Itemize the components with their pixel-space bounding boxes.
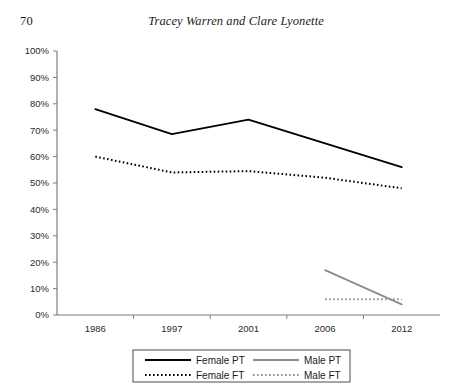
y-axis-tick-label: 10%: [30, 283, 50, 294]
legend-label-male-pt: Male PT: [304, 355, 341, 366]
x-axis-tick-label: 1986: [85, 323, 106, 334]
y-axis-tick-label: 90%: [30, 72, 50, 83]
figure-line-chart: 0%10%20%30%40%50%60%70%80%90%100% 198619…: [0, 36, 472, 387]
y-axis-tick-label: 100%: [25, 45, 50, 56]
y-axis-tick-labels: 0%10%20%30%40%50%60%70%80%90%100%: [25, 45, 50, 320]
x-axis-tick-labels: 19861997200120062012: [85, 323, 413, 334]
x-axis-tick-label: 2006: [315, 323, 336, 334]
x-axis-tick-label: 1997: [161, 323, 182, 334]
y-axis-tick-label: 0%: [35, 309, 49, 320]
y-axis-tick-label: 80%: [30, 98, 50, 109]
page-header: 70 Tracey Warren and Clare Lyonette: [0, 14, 472, 34]
legend-label-female-pt: Female PT: [196, 355, 245, 366]
legend-label-female-ft: Female FT: [196, 370, 244, 381]
x-axis-tick-label: 2001: [238, 323, 259, 334]
y-axis-tick-label: 50%: [30, 177, 50, 188]
y-axis-tick-label: 70%: [30, 125, 50, 136]
chart-canvas: 0%10%20%30%40%50%60%70%80%90%100% 198619…: [0, 36, 472, 387]
legend-entries: Female PTMale PTFemale FTMale FT: [145, 355, 341, 381]
y-axis-tick-label: 40%: [30, 204, 50, 215]
data-series-group: [95, 109, 401, 304]
y-axis-tick-label: 20%: [30, 257, 50, 268]
series-line-female-pt: [95, 109, 401, 167]
running-head: Tracey Warren and Clare Lyonette: [0, 14, 472, 29]
x-axis-tick-label: 2012: [391, 323, 412, 334]
legend-label-male-ft: Male FT: [304, 370, 341, 381]
y-axis-tick-label: 60%: [30, 151, 50, 162]
y-axis-tick-label: 30%: [30, 230, 50, 241]
series-line-female-ft: [95, 157, 401, 189]
